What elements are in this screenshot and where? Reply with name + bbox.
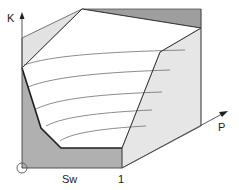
p-axis-label: P xyxy=(218,122,225,133)
k-axis-label: K xyxy=(7,13,14,24)
k-axis-arrow-icon xyxy=(20,12,25,19)
p-axis-arrow-icon xyxy=(219,111,228,117)
one-tick-label: 1 xyxy=(118,174,124,185)
sw-tick-label: Sw xyxy=(62,174,77,185)
surface-diagram xyxy=(0,0,239,190)
